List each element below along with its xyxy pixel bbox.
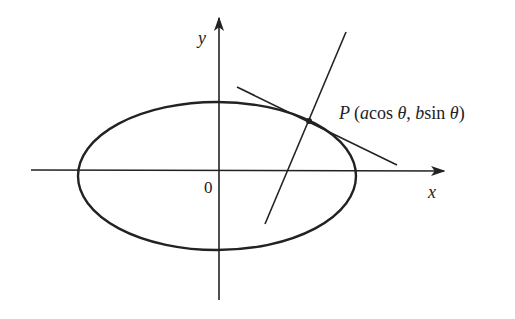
ellipse-diagram: y x 0 P(acos θ, bsin θ): [0, 0, 515, 319]
x-axis: [31, 170, 444, 171]
y-axis-label: y: [196, 28, 206, 48]
point-p-label: P(acos θ, bsin θ): [338, 103, 465, 124]
point-p-marker: [306, 118, 312, 124]
x-axis-label: x: [427, 182, 436, 202]
normal-line: [265, 32, 346, 224]
origin-label: 0: [204, 178, 213, 197]
